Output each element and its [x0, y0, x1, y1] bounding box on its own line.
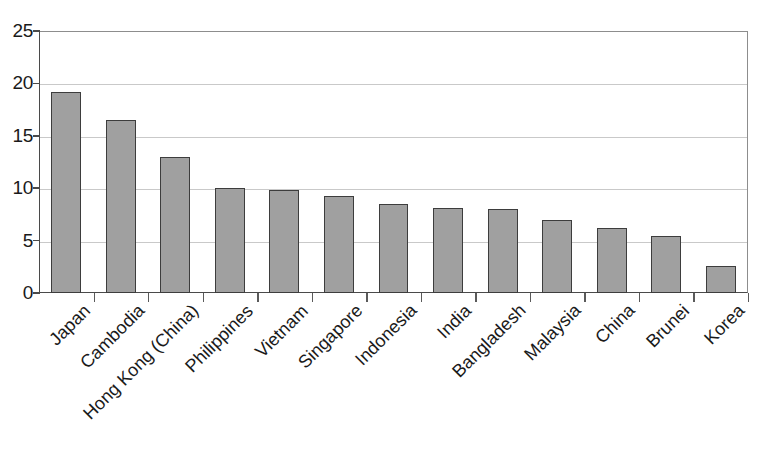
x-tick-mark — [475, 293, 476, 302]
y-tick-label: 5 — [3, 231, 33, 250]
bar[interactable] — [706, 266, 736, 293]
y-tick-label: 10 — [3, 178, 33, 197]
y-tick-mark — [33, 135, 40, 137]
x-axis-label: Vietnam — [252, 348, 265, 361]
x-tick-mark — [312, 293, 313, 302]
y-tick-label: 25 — [3, 21, 33, 40]
bar[interactable] — [433, 208, 463, 293]
x-axis-label: Singapore — [295, 359, 308, 372]
y-tick-mark — [33, 240, 40, 242]
bar[interactable] — [542, 220, 572, 293]
bar[interactable] — [51, 92, 81, 293]
bar[interactable] — [597, 228, 627, 293]
x-axis-label: Japan — [46, 336, 59, 349]
x-tick-mark — [639, 293, 640, 302]
x-tick-mark — [584, 293, 585, 302]
x-axis-label: Hong Kong (China) — [80, 410, 93, 423]
x-tick-mark — [421, 293, 422, 302]
x-axis-label: Philippines — [182, 363, 195, 376]
y-tick-mark — [33, 292, 40, 294]
bar-chart: 0510152025 JapanCambodiaHong Kong (China… — [0, 0, 760, 463]
x-axis-label: Brunei — [643, 338, 656, 351]
x-tick-mark — [530, 293, 531, 302]
bar[interactable] — [651, 236, 681, 293]
bars-layer — [39, 31, 748, 293]
bar[interactable] — [324, 196, 354, 293]
bar[interactable] — [106, 120, 136, 293]
bar[interactable] — [269, 190, 299, 293]
x-tick-mark — [366, 293, 367, 302]
x-axis-label: China — [592, 334, 605, 347]
y-tick-mark — [33, 30, 40, 32]
x-tick-mark — [148, 293, 149, 302]
x-axis-label: Indonesia — [352, 356, 365, 369]
bar[interactable] — [160, 157, 190, 293]
x-axis-label: India — [434, 329, 447, 342]
bar[interactable] — [215, 188, 245, 293]
y-tick-mark — [33, 83, 40, 85]
x-tick-mark — [693, 293, 694, 302]
x-axis-label: Malaysia — [521, 351, 534, 364]
y-axis: 0510152025 — [0, 0, 33, 463]
y-tick-label: 20 — [3, 73, 33, 92]
y-tick-mark — [33, 187, 40, 189]
x-tick-mark — [203, 293, 204, 302]
bar[interactable] — [488, 209, 518, 293]
y-tick-label: 15 — [3, 126, 33, 145]
x-axis-label: Bangladesh — [449, 368, 462, 381]
bar[interactable] — [379, 204, 409, 293]
y-tick-label: 0 — [3, 283, 33, 302]
x-axis-label: Korea — [701, 335, 714, 348]
x-axis-label: Cambodia — [77, 359, 90, 372]
x-tick-mark — [257, 293, 258, 302]
x-tick-mark — [748, 293, 749, 302]
x-tick-mark — [94, 293, 95, 302]
